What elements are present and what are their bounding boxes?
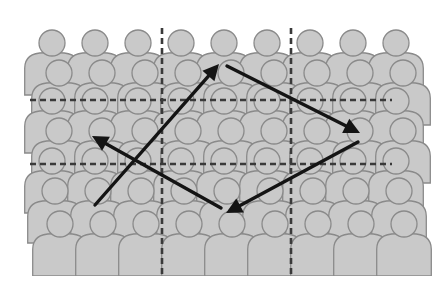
diagram-canvas <box>0 0 447 295</box>
crowd-circulation-diagram <box>0 0 447 295</box>
